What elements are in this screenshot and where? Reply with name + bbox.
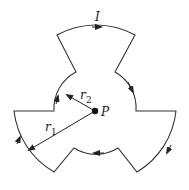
point-p-label: P — [100, 105, 110, 119]
current-label: I — [94, 10, 100, 24]
current-loop-diagram: I P r 1 r 2 — [0, 0, 189, 190]
arrow-left-outer-icon — [17, 137, 20, 144]
r2-subscript: 2 — [86, 95, 92, 105]
point-p-dot — [92, 108, 98, 114]
arrow-right-outer-icon — [167, 145, 171, 153]
r1-subscript: 1 — [51, 127, 57, 137]
radius-r1-line — [29, 111, 95, 150]
current-loop-path — [14, 25, 176, 172]
arrow-left-inner-icon — [56, 96, 58, 104]
arrow-right-inner-icon — [128, 82, 133, 92]
